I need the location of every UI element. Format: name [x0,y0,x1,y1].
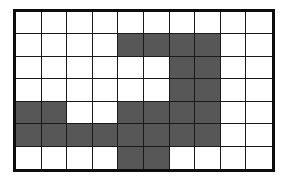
grid-cell-r5-c6 [144,102,170,124]
grid-cell-r7-c9 [221,147,247,169]
grid-cell-r7-c8 [195,147,221,169]
grid-cell-r5-c10 [246,102,272,124]
grid-cell-r1-c4 [93,12,119,34]
grid-cell-r2-c1 [16,34,42,56]
grid-cell-r5-c9 [221,102,247,124]
grid-cell-r5-c1 [16,102,42,124]
grid-cell-r5-c2 [42,102,68,124]
grid-cell-r5-c3 [67,102,93,124]
grid-cell-r1-c8 [195,12,221,34]
grid-cell-r1-c3 [67,12,93,34]
grid-cell-r4-c6 [144,79,170,101]
grid-cell-r4-c10 [246,79,272,101]
grid-cell-r4-c7 [170,79,196,101]
grid-cell-r2-c7 [170,34,196,56]
grid-cell-r6-c1 [16,124,42,146]
grid-cell-r5-c5 [118,102,144,124]
grid-cell-r3-c4 [93,57,119,79]
grid-cell-r2-c9 [221,34,247,56]
grid-cell-r1-c2 [42,12,68,34]
grid-cell-r3-c8 [195,57,221,79]
grid-cell-r5-c8 [195,102,221,124]
grid-cell-r6-c6 [144,124,170,146]
grid-cell-r3-c1 [16,57,42,79]
grid-cell-r5-c4 [93,102,119,124]
grid-cell-r3-c2 [42,57,68,79]
grid-cell-r1-c9 [221,12,247,34]
grid-cell-r7-c5 [118,147,144,169]
grid-cell-r6-c5 [118,124,144,146]
grid-cell-r7-c10 [246,147,272,169]
grid-cell-r6-c3 [67,124,93,146]
grid-figure [0,0,288,182]
grid-cell-r2-c2 [42,34,68,56]
grid-cell-r7-c3 [67,147,93,169]
grid-cell-r3-c3 [67,57,93,79]
grid-cell-r7-c1 [16,147,42,169]
grid-cell-r2-c8 [195,34,221,56]
grid-cell-r1-c1 [16,12,42,34]
grid-cell-r3-c6 [144,57,170,79]
grid-cell-r5-c7 [170,102,196,124]
grid-cell-r4-c4 [93,79,119,101]
grid-cell-container [16,12,272,169]
grid-cell-r2-c3 [67,34,93,56]
grid-cell-r2-c5 [118,34,144,56]
grid-cell-r3-c7 [170,57,196,79]
grid-cell-r6-c9 [221,124,247,146]
grid-cell-r2-c10 [246,34,272,56]
grid-cell-r6-c4 [93,124,119,146]
grid-cell-r2-c6 [144,34,170,56]
grid-cell-r1-c10 [246,12,272,34]
grid-cell-r1-c5 [118,12,144,34]
grid-cell-r1-c7 [170,12,196,34]
grid-cell-r6-c10 [246,124,272,146]
grid-cell-r3-c5 [118,57,144,79]
grid-frame [13,9,275,172]
grid-cell-r4-c5 [118,79,144,101]
grid-cell-r3-c10 [246,57,272,79]
grid-cell-r7-c2 [42,147,68,169]
grid-cell-r3-c9 [221,57,247,79]
grid-cell-r2-c4 [93,34,119,56]
grid-cell-r1-c6 [144,12,170,34]
grid-cell-r6-c7 [170,124,196,146]
grid-cell-r4-c3 [67,79,93,101]
grid-cell-r4-c8 [195,79,221,101]
grid-cell-r4-c2 [42,79,68,101]
grid-cell-r7-c6 [144,147,170,169]
grid-cell-r6-c2 [42,124,68,146]
grid-cell-r4-c1 [16,79,42,101]
grid-cell-r7-c4 [93,147,119,169]
grid-cell-r7-c7 [170,147,196,169]
grid-cell-r6-c8 [195,124,221,146]
grid-cell-r4-c9 [221,79,247,101]
